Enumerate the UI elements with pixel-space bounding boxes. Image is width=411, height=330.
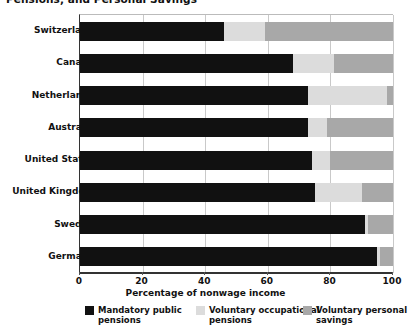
bar-segment [80,22,224,41]
bar-row [80,86,393,105]
x-tick [204,272,205,275]
bar-segment [380,247,393,266]
legend-label: Mandatory public pensions [98,305,182,325]
category-label: Switzerland [34,25,94,35]
bar-segment [80,54,293,73]
bar-row [80,183,393,202]
bar-row [80,215,393,234]
category-label: Australia [48,122,94,132]
chart-title: Pensions, and Personal Savings [6,0,306,5]
legend-label: Voluntary personal savings [316,305,407,325]
bar-segment [368,215,393,234]
bar-segment [362,183,393,202]
legend-swatch-icon [196,306,205,315]
x-axis-label: Percentage of nonwage income [0,288,411,298]
x-tick-label: 100 [383,276,402,286]
x-tick-label: 60 [261,276,274,286]
category-label: United Kingdom [12,186,94,196]
x-tick [79,272,80,275]
bar-row [80,22,393,41]
category-label: Sweden [54,219,94,229]
x-tick [329,272,330,275]
legend-item[interactable]: Voluntary occupational pensions [196,305,320,325]
x-axis-line [79,272,392,274]
x-tick [392,272,393,275]
bar-row [80,247,393,266]
bar-segment [293,54,334,73]
bar-row [80,54,393,73]
bar-segment [80,118,308,137]
chart-legend: Mandatory public pensionsVoluntary occup… [0,303,411,330]
x-tick [267,272,268,275]
legend-swatch-icon [85,306,94,315]
x-tick-label: 40 [198,276,211,286]
legend-swatch-icon [303,306,312,315]
bar-segment [80,215,365,234]
x-tick-label: 80 [323,276,336,286]
bar-segment [387,86,393,105]
bar-segment [312,151,331,170]
x-tick-label: 0 [76,276,82,286]
bar-segment [80,86,308,105]
bar-segment [315,183,362,202]
bar-segment [265,22,393,41]
bar-row [80,118,393,137]
bar-segment [330,151,393,170]
bar-row [80,151,393,170]
x-tick [142,272,143,275]
chart-area [0,14,411,272]
bar-segment [224,22,265,41]
bar-segment [308,118,327,137]
category-label: Canada [56,57,94,67]
bar-segment [80,183,315,202]
bar-segment [80,247,377,266]
bar-segment [334,54,393,73]
plot-area [79,14,393,273]
bar-segment [327,118,393,137]
category-label: United States [25,154,94,164]
legend-item[interactable]: Mandatory public pensions [85,305,182,325]
legend-item[interactable]: Voluntary personal savings [303,305,407,325]
category-label: Germany [48,251,94,261]
x-tick-label: 20 [135,276,148,286]
bar-segment [80,151,312,170]
category-label: Netherlands [32,90,94,100]
bar-segment [308,86,386,105]
gridline [393,15,394,273]
